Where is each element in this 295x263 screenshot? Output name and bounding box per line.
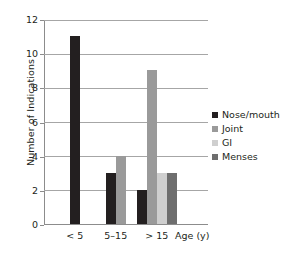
legend-swatch-icon <box>212 126 218 132</box>
bar <box>167 173 177 224</box>
bar-chart-figure: Number of Indications 024681012 < 55–15>… <box>0 0 295 263</box>
y-tick-label: 12 <box>26 15 38 25</box>
y-tick-mark <box>40 88 44 89</box>
gridline <box>44 156 208 157</box>
bar <box>147 70 157 224</box>
legend-label: Nose/mouth <box>222 110 280 120</box>
gridline <box>44 190 208 191</box>
bar <box>157 173 167 224</box>
legend-item[interactable]: Joint <box>212 122 294 136</box>
y-tick-mark <box>40 157 44 158</box>
legend-label: Joint <box>222 124 243 134</box>
legend-item[interactable]: Menses <box>212 150 294 164</box>
bar <box>137 190 147 224</box>
gridline <box>44 88 208 89</box>
plot-area: 024681012 <box>44 20 208 225</box>
legend-swatch-icon <box>212 154 218 160</box>
y-tick-label: 0 <box>32 220 38 230</box>
y-axis-title: Number of Indications <box>25 18 36 208</box>
y-tick-mark <box>40 123 44 124</box>
legend-item[interactable]: GI <box>212 136 294 150</box>
chart-legend: Nose/mouthJointGIMenses <box>212 108 294 164</box>
y-tick-mark <box>40 20 44 21</box>
bar <box>106 173 116 224</box>
legend-swatch-icon <box>212 140 218 146</box>
y-tick-mark <box>40 191 44 192</box>
legend-swatch-icon <box>212 112 218 118</box>
gridline <box>44 54 208 55</box>
x-tick-label: > 15 <box>145 231 168 241</box>
y-tick-mark <box>40 225 44 226</box>
bar <box>116 156 126 224</box>
y-tick-label: 2 <box>32 186 38 196</box>
legend-label: Menses <box>222 152 258 162</box>
legend-item[interactable]: Nose/mouth <box>212 108 294 122</box>
legend-label: GI <box>222 138 232 148</box>
x-axis-title: Age (y) <box>175 231 209 241</box>
bar <box>70 36 80 224</box>
gridline <box>44 20 208 21</box>
y-tick-label: 8 <box>32 84 38 94</box>
y-tick-mark <box>40 54 44 55</box>
x-tick-label: 5–15 <box>104 231 127 241</box>
y-tick-label: 4 <box>32 152 38 162</box>
x-axis-line <box>44 224 208 225</box>
y-tick-label: 10 <box>26 49 38 59</box>
x-tick-label: < 5 <box>66 231 83 241</box>
y-tick-label: 6 <box>32 118 38 128</box>
gridline <box>44 122 208 123</box>
